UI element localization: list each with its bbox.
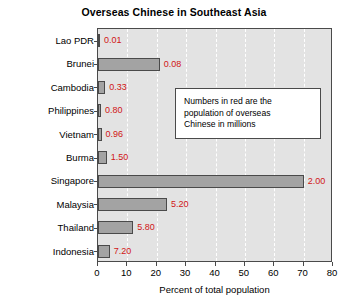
x-axis-tick (303, 262, 304, 266)
x-axis-tick-label: 20 (150, 267, 161, 278)
x-axis-tick-label: 50 (239, 267, 250, 278)
category-label: Brunei (0, 52, 94, 75)
x-axis-tick (332, 262, 333, 266)
category-label: Thailand (0, 216, 94, 239)
y-axis-tick (94, 181, 98, 182)
y-axis-tick (94, 134, 98, 135)
bar-value-label: 0.96 (106, 130, 124, 139)
y-axis-tick (94, 111, 98, 112)
bar-value-label: 5.20 (171, 200, 189, 209)
x-axis-tick-label: 30 (180, 267, 191, 278)
x-axis-tick (215, 262, 216, 266)
y-axis-tick (94, 158, 98, 159)
bar-row: Cambodia0.33 (98, 76, 127, 99)
annotation-line-2: population of overseas (184, 108, 312, 120)
bar-value-label: 0.08 (164, 60, 182, 69)
category-label: Singapore (0, 169, 94, 192)
bar (98, 58, 160, 71)
x-axis-tick (273, 262, 274, 266)
bar-value-label: 7.20 (114, 247, 132, 256)
category-label: Vietnam (0, 123, 94, 146)
bar (98, 175, 304, 188)
annotation-line-3: Chinese in millions (184, 119, 312, 131)
bar-chart: Overseas Chinese in Southeast Asia Lao P… (0, 0, 348, 304)
x-axis-tick-label: 40 (209, 267, 220, 278)
bar-row: Burma1.50 (98, 146, 128, 169)
y-axis-tick (94, 64, 98, 65)
annotation-line-1: Numbers in red are the (184, 96, 312, 108)
x-axis-tick (126, 262, 127, 266)
bar-value-label: 0.01 (104, 36, 122, 45)
bar (98, 198, 167, 211)
bar-row: Malaysia5.20 (98, 193, 189, 216)
bar-row: Vietnam0.96 (98, 123, 123, 146)
bar (98, 34, 100, 47)
y-axis-tick (94, 228, 98, 229)
bar-value-label: 0.80 (105, 106, 123, 115)
category-label: Philippines (0, 99, 94, 122)
bars-layer: Lao PDR0.01Brunei0.08Cambodia0.33Philipp… (98, 29, 331, 261)
x-axis-tick (185, 262, 186, 266)
x-axis-tick-label: 70 (297, 267, 308, 278)
x-axis-tick (156, 262, 157, 266)
x-axis-tick (244, 262, 245, 266)
bar-value-label: 1.50 (111, 153, 129, 162)
bar-value-label: 2.00 (308, 177, 326, 186)
bar-row: Brunei0.08 (98, 52, 181, 75)
bar-row: Philippines0.80 (98, 99, 122, 122)
bar (98, 81, 105, 94)
category-label: Indonesia (0, 240, 94, 263)
plot-area: Lao PDR0.01Brunei0.08Cambodia0.33Philipp… (97, 28, 332, 262)
category-label: Lao PDR (0, 29, 94, 52)
annotation-box: Numbers in red are the population of ove… (175, 88, 321, 139)
x-axis-label: Percent of total population (97, 284, 332, 295)
x-axis-tick-label: 80 (327, 267, 338, 278)
x-axis-tick (97, 262, 98, 266)
y-axis-tick (94, 87, 98, 88)
bar (98, 221, 133, 234)
bar-row: Thailand5.80 (98, 216, 155, 239)
bar-row: Indonesia7.20 (98, 240, 131, 263)
category-label: Cambodia (0, 76, 94, 99)
bar-value-label: 0.33 (109, 83, 127, 92)
bar-row: Singapore2.00 (98, 169, 325, 192)
bar-value-label: 5.80 (137, 223, 155, 232)
bar (98, 245, 110, 258)
bar (98, 128, 102, 141)
y-axis-tick (94, 251, 98, 252)
bar (98, 104, 101, 117)
y-axis-tick (94, 41, 98, 42)
category-label: Malaysia (0, 193, 94, 216)
x-axis: 01020304050607080 (97, 262, 332, 267)
x-axis-tick-label: 60 (268, 267, 279, 278)
bar (98, 151, 107, 164)
x-axis-tick-label: 10 (121, 267, 132, 278)
x-axis-tick-label: 0 (94, 267, 99, 278)
bar-row: Lao PDR0.01 (98, 29, 122, 52)
y-axis-tick (94, 204, 98, 205)
category-label: Burma (0, 146, 94, 169)
chart-title: Overseas Chinese in Southeast Asia (0, 6, 348, 18)
